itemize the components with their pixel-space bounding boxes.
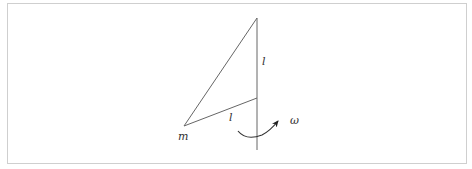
angular-velocity-label: ω: [290, 115, 299, 126]
rotation-arrow-icon: [238, 121, 278, 137]
lower-length-label: l: [229, 112, 233, 123]
upper-length-label: l: [262, 56, 266, 67]
upper-rod: [184, 18, 257, 126]
pendulum-diagram: [0, 0, 472, 169]
lower-rod: [184, 98, 257, 126]
mass-label: m: [178, 131, 188, 142]
